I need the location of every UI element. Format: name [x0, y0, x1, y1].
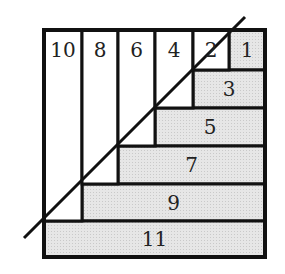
row-label: 5: [204, 115, 217, 139]
column-label: 10: [50, 38, 75, 62]
row-label: 9: [167, 191, 180, 215]
square-partition-diagram: 1357911108642: [0, 0, 285, 274]
column-label: 4: [168, 38, 181, 62]
row-label: 7: [185, 153, 198, 177]
row-label: 11: [142, 227, 167, 251]
column-label: 8: [94, 38, 107, 62]
column-label: 2: [205, 38, 218, 62]
row-label: 3: [223, 77, 236, 101]
column-label: 6: [130, 38, 143, 62]
row-label: 1: [241, 38, 254, 62]
